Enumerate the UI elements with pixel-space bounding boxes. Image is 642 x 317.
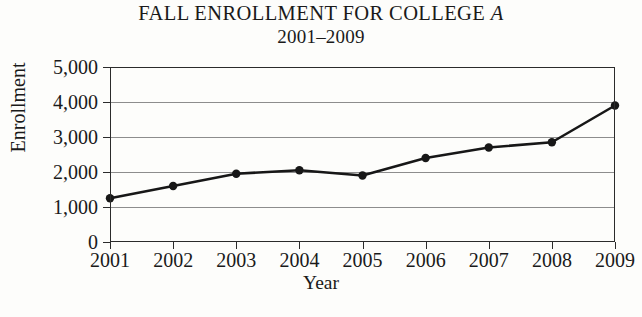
data-point-2005 xyxy=(358,171,366,179)
y-tick-mark xyxy=(103,172,110,173)
x-tick-mark xyxy=(299,242,300,249)
x-tick-mark xyxy=(615,242,616,249)
series-enrollment xyxy=(110,67,615,242)
x-axis-label: Year xyxy=(0,272,642,294)
x-tick-mark xyxy=(552,242,553,249)
y-tick-mark xyxy=(103,102,110,103)
chart-title-college-letter: A xyxy=(491,2,504,24)
x-tick-mark xyxy=(426,242,427,249)
x-tick-mark xyxy=(110,242,111,249)
data-point-2008 xyxy=(548,138,556,146)
data-point-2007 xyxy=(485,143,493,151)
y-tick-mark xyxy=(103,242,110,243)
data-point-2003 xyxy=(232,170,240,178)
series-line xyxy=(110,106,615,199)
y-tick-label: 2,000 xyxy=(0,161,98,184)
title-block: FALL ENROLLMENT FOR COLLEGE A 2001–2009 xyxy=(0,2,642,47)
x-tick-mark xyxy=(173,242,174,249)
x-tick-mark xyxy=(236,242,237,249)
x-tick-mark xyxy=(363,242,364,249)
data-point-2002 xyxy=(169,182,177,190)
y-tick-label: 4,000 xyxy=(0,91,98,114)
x-tick-label: 2009 xyxy=(570,249,642,272)
chart-title-text: FALL ENROLLMENT FOR COLLEGE xyxy=(138,2,490,24)
x-tick-mark xyxy=(489,242,490,249)
chart-figure: FALL ENROLLMENT FOR COLLEGE A 2001–2009 … xyxy=(0,0,642,317)
chart-title: FALL ENROLLMENT FOR COLLEGE A xyxy=(0,2,642,25)
y-tick-mark xyxy=(103,137,110,138)
data-point-2006 xyxy=(421,154,429,162)
data-point-2001 xyxy=(106,194,114,202)
y-tick-label: 5,000 xyxy=(0,56,98,79)
data-point-2009 xyxy=(611,101,619,109)
chart-subtitle: 2001–2009 xyxy=(0,26,642,47)
y-tick-label: 3,000 xyxy=(0,126,98,149)
data-point-2004 xyxy=(295,166,303,174)
y-tick-mark xyxy=(103,207,110,208)
y-tick-mark xyxy=(103,67,110,68)
y-tick-label: 1,000 xyxy=(0,196,98,219)
plot-area: 01,0002,0003,0004,0005,000 2001200220032… xyxy=(110,67,615,242)
